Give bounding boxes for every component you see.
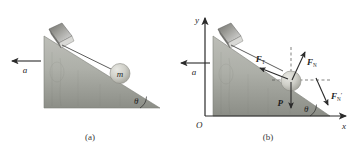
- acceleration-label-b: a: [192, 67, 197, 77]
- panel-caption-b: (b): [263, 132, 274, 142]
- tension-label-FT: FT: [255, 54, 266, 65]
- incline-wedge-b: [213, 36, 330, 116]
- origin-label: O: [196, 120, 203, 130]
- angle-label-a: θ: [134, 96, 139, 106]
- angle-label-b: θ: [304, 104, 309, 114]
- x-axis-label: x: [341, 121, 346, 131]
- figure-svg: m θ a (a) y x O: [0, 0, 357, 151]
- panel-a: m θ a (a): [12, 23, 160, 142]
- normal-reaction-label-FN-prime: FN′: [330, 91, 343, 102]
- acceleration-label-a: a: [23, 65, 28, 75]
- panel-b: y x O FT FN FN′ P θ: [181, 15, 346, 142]
- mass-label-a: m: [117, 69, 124, 79]
- y-axis-label: y: [194, 15, 199, 25]
- normal-reaction-vector-FN-prime: [316, 78, 328, 105]
- physics-figure: m θ a (a) y x O: [0, 0, 357, 151]
- normal-label-FN: FN: [306, 57, 317, 68]
- panel-caption-a: (a): [85, 132, 95, 142]
- gravity-label-P: P: [278, 98, 284, 108]
